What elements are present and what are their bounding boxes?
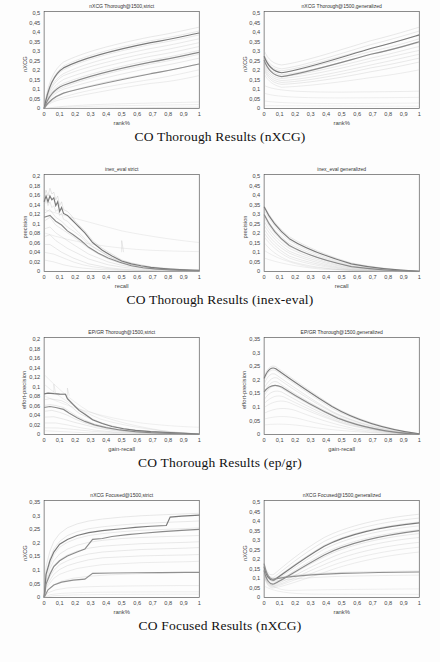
y-tick: 0: [257, 105, 260, 111]
x-tick: 0,5: [118, 437, 126, 443]
x-tick: 0,5: [118, 274, 126, 280]
figure-block-4: nXCG Focused@1500,strict 0,35 0,3 0,25 0…: [0, 489, 440, 652]
x-tick: 0: [43, 437, 46, 443]
x-tick: 1: [418, 600, 421, 606]
x-tick: 1: [198, 600, 201, 606]
curve-bundle: [44, 188, 199, 271]
y-tick: 0,1: [252, 404, 260, 410]
y-axis-label: effort-precision: [241, 371, 247, 409]
x-tick: 0,2: [291, 437, 299, 443]
y-tick: 0,02: [29, 259, 40, 265]
panel-pair-4: nXCG Focused@1500,strict 0,35 0,3 0,25 0…: [0, 489, 440, 617]
x-tick: 0,7: [369, 111, 377, 117]
y-tick: 0,45: [249, 20, 260, 26]
x-tick: 0,7: [149, 437, 157, 443]
x-tick: 0,2: [291, 111, 299, 117]
y-tick: 0,15: [249, 77, 260, 83]
x-tick: 0,4: [322, 111, 330, 117]
y-tick: 0,15: [249, 240, 260, 246]
plot-panel-r3c2: EP/GR Thorough@1500,generalized 0,35 0,3…: [234, 326, 430, 454]
x-tick: 0,1: [56, 600, 64, 606]
y-tick-labels: 0,35 0,3 0,25 0,2 0,15 0,1 0,05 0: [29, 499, 40, 600]
y-tick: 0,1: [32, 384, 40, 390]
curve-highlight: [44, 393, 199, 434]
x-tick: 0,1: [276, 437, 284, 443]
y-tick-labels: 0,5 0,45 0,4 0,35 0,3 0,25 0,2 0,15 0,1 …: [249, 10, 260, 111]
x-tick: 0,6: [353, 111, 361, 117]
y-tick: 0: [257, 431, 260, 437]
x-axis-label: recall: [115, 283, 129, 289]
x-tick: 0,9: [400, 111, 408, 117]
x-tick-labels: 0 0,1 0,2 0,3 0,4 0,5 0,6 0,7 0,8 0,9 1: [263, 437, 421, 443]
y-tick: 0,05: [249, 585, 260, 591]
y-tick: 0,15: [249, 390, 260, 396]
y-tick: 0,06: [29, 403, 40, 409]
y-tick: 0,16: [29, 192, 40, 198]
y-tick: 0,05: [249, 418, 260, 424]
y-tick-labels: 0,5 0,45 0,4 0,35 0,3 0,25 0,2 0,15 0,1 …: [249, 173, 260, 274]
x-tick: 1: [198, 274, 201, 280]
chart-title: EP/GR Thorough@1500,generalized: [301, 329, 383, 335]
y-axis-label: precision: [22, 215, 28, 238]
y-tick: 0,1: [252, 249, 260, 255]
x-tick: 0: [263, 274, 266, 280]
y-tick: 0,4: [252, 29, 260, 35]
panel-pair-2: inex_eval strict 0,2 0,18 0,16 0,14 0,12…: [0, 163, 440, 291]
x-tick: 0,9: [400, 437, 408, 443]
x-axis-label: rank%: [333, 120, 349, 126]
x-tick: 0,5: [118, 600, 126, 606]
chart-title: nXCG Thorough@1500,generalized: [302, 3, 382, 9]
y-tick: 0,35: [249, 336, 260, 342]
x-tick: 0,3: [87, 274, 95, 280]
plot-svg-r3c1: EP/GR Thorough@1500,strict 0,2 0,18 0,16…: [14, 326, 210, 454]
x-axis-label: recall: [335, 283, 349, 289]
y-tick: 0,16: [29, 355, 40, 361]
x-tick: 0,6: [133, 274, 141, 280]
x-tick: 0: [43, 600, 46, 606]
curve-highlight: [44, 33, 199, 109]
plot-frame: [264, 12, 419, 109]
y-tick: 0,15: [249, 566, 260, 572]
x-tick: 0,9: [400, 600, 408, 606]
x-tick: 0,9: [180, 111, 188, 117]
y-axis-label: effort-precision: [21, 371, 27, 409]
x-tick-labels: 0 0,1 0,2 0,3 0,4 0,5 0,6 0,7 0,8 0,9 1: [43, 111, 201, 117]
x-tick: 0,1: [56, 437, 64, 443]
x-tick: 0,2: [71, 600, 79, 606]
y-axis-label: nXCG: [242, 545, 248, 561]
y-tick: 0,35: [249, 39, 260, 45]
x-tick: 0,5: [338, 274, 346, 280]
x-tick-labels: 0 0,1 0,2 0,3 0,4 0,5 0,6 0,7 0,8 0,9 1: [43, 274, 201, 280]
x-tick: 0,4: [102, 111, 110, 117]
x-tick: 0,3: [307, 437, 315, 443]
y-tick: 0,35: [249, 202, 260, 208]
y-tick: 0,45: [29, 20, 40, 26]
y-tick: 0,25: [249, 363, 260, 369]
plot-svg-r3c2: EP/GR Thorough@1500,generalized 0,35 0,3…: [234, 326, 430, 454]
y-axis-label: precision: [242, 215, 248, 238]
figure-caption-3: CO Thorough Results (ep/gr): [0, 455, 440, 471]
y-tick-labels: 0,2 0,18 0,16 0,14 0,12 0,1 0,08 0,06 0,…: [29, 173, 40, 274]
chart-title: EP/GR Thorough@1500,strict: [88, 329, 155, 335]
x-tick: 0: [43, 111, 46, 117]
x-tick: 0,6: [133, 437, 141, 443]
y-tick-labels: 0,5 0,45 0,4 0,35 0,3 0,25 0,2 0,15 0,1 …: [249, 499, 260, 600]
x-tick: 0,2: [291, 600, 299, 606]
chart-title: inex_eval strict: [105, 166, 139, 172]
y-tick: 0,2: [32, 67, 40, 73]
y-tick: 0: [257, 594, 260, 600]
y-tick: 0,1: [32, 221, 40, 227]
x-tick: 0,5: [118, 111, 126, 117]
x-tick: 0,7: [369, 274, 377, 280]
figure-block-1: nXCG Thorough@1500,strict 0,5 0,45 0,4 0…: [0, 0, 440, 163]
plot-svg-r1c2: nXCG Thorough@1500,generalized 0,5 0,45 …: [234, 0, 430, 128]
x-tick: 0,8: [164, 600, 172, 606]
x-tick: 0,4: [322, 437, 330, 443]
x-tick: 0,4: [102, 600, 110, 606]
y-tick: 0,35: [29, 39, 40, 45]
y-tick: 0,2: [252, 377, 260, 383]
plot-panel-r4c1: nXCG Focused@1500,strict 0,35 0,3 0,25 0…: [14, 489, 210, 617]
panel-pair-1: nXCG Thorough@1500,strict 0,5 0,45 0,4 0…: [0, 0, 440, 128]
plot-frame: [264, 501, 419, 598]
y-tick: 0: [37, 594, 40, 600]
